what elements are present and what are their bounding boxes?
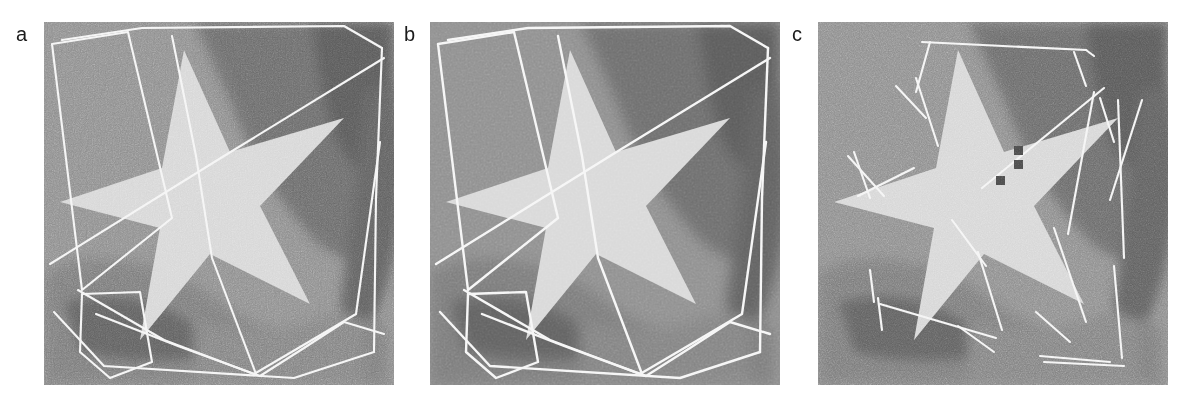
panel-label-a: a [16,24,27,44]
corner-marker [996,176,1005,185]
panel-a-canvas [44,22,394,385]
corner-marker [1014,160,1023,169]
panel-c-canvas [818,22,1168,385]
panel-b [430,22,780,385]
panel-a-graphic [44,22,394,385]
panel-b-canvas [430,22,780,385]
corner-marker [1014,146,1023,155]
panel-c [818,22,1168,385]
panel-label-c: c [792,24,802,44]
panel-c-graphic [818,22,1168,385]
figure-panel-row: a [0,0,1197,408]
panel-label-b: b [404,24,415,44]
panel-a [44,22,394,385]
panel-b-graphic [430,22,780,385]
